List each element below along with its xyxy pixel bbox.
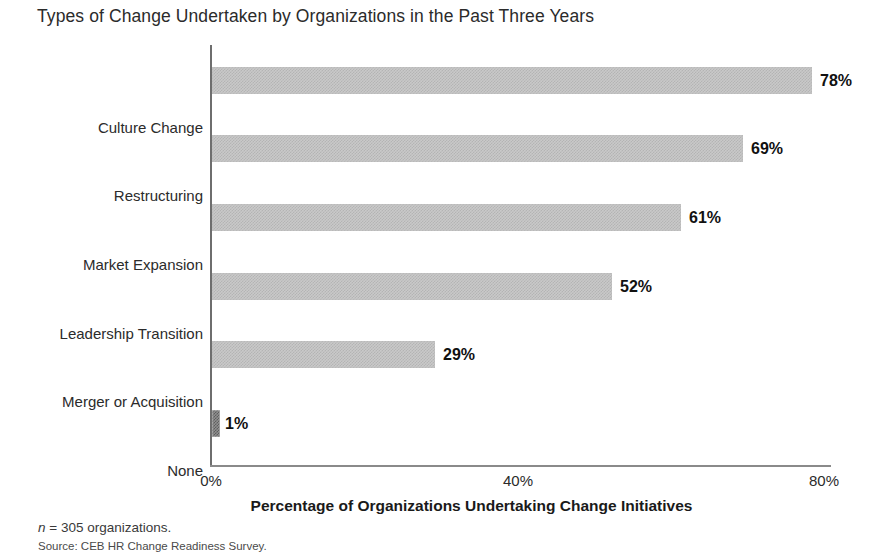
x-tick-label-0: 0%	[200, 472, 222, 489]
bar-merger-or-acquisition[interactable]	[212, 341, 435, 368]
footnote-n-symbol: n	[38, 520, 46, 535]
bar-value-merger-or-acquisition: 29%	[443, 341, 475, 368]
bar-value-market-expansion: 61%	[689, 204, 721, 231]
x-tick-label-40: 40%	[503, 472, 533, 489]
footnote-sample-text: = 305 organizations.	[46, 520, 172, 535]
bar-leadership-transition[interactable]	[212, 273, 612, 300]
bar-culture-change[interactable]	[212, 67, 812, 94]
category-label-restructuring: Restructuring	[3, 187, 203, 204]
x-axis-line	[210, 465, 831, 467]
category-label-leadership-transition: Leadership Transition	[3, 325, 203, 342]
footnotes: n = 305 organizations. Source: CEB HR Ch…	[38, 519, 267, 555]
y-axis-line	[210, 45, 212, 465]
bar-value-culture-change: 78%	[820, 67, 852, 94]
bar-value-none: 1%	[225, 410, 248, 437]
category-label-culture-change: Culture Change	[3, 119, 203, 136]
category-label-market-expansion: Market Expansion	[3, 256, 203, 273]
category-label-merger-or-acquisition: Merger or Acquisition	[3, 393, 203, 410]
footnote-source: Source: CEB HR Change Readiness Survey.	[38, 539, 267, 555]
bar-restructuring[interactable]	[212, 135, 743, 162]
chart-title: Types of Change Undertaken by Organizati…	[37, 6, 594, 27]
footnote-sample-size: n = 305 organizations.	[38, 519, 267, 537]
bar-none[interactable]	[212, 410, 220, 437]
x-tick-label-80: 80%	[809, 472, 839, 489]
x-axis-title: Percentage of Organizations Undertaking …	[0, 497, 888, 515]
bar-value-restructuring: 69%	[751, 135, 783, 162]
plot-area: 78% 69% 61% 52% 29% 1%	[210, 45, 825, 465]
x-axis-title-text: Percentage of Organizations Undertaking …	[196, 497, 693, 514]
category-label-column: Culture Change Restructuring Market Expa…	[0, 45, 203, 465]
category-label-none: None	[3, 462, 203, 479]
bar-value-leadership-transition: 52%	[620, 273, 652, 300]
bar-market-expansion[interactable]	[212, 204, 681, 231]
